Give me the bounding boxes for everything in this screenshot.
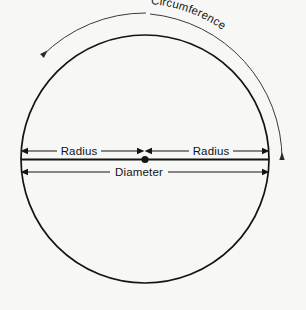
radius-right-label: Radius [193,145,230,157]
circle-diagram: Circumference Radius Radius Diameter [0,0,306,310]
circumference-arc [42,13,146,56]
radius-left-label: Radius [61,145,98,157]
center-dot [141,156,148,163]
diameter-label: Diameter [115,166,163,178]
circumference-arc-right [150,14,282,160]
